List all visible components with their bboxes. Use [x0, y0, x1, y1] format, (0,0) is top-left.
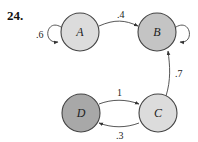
edge-label-a-b: .4 — [117, 9, 125, 20]
node-c-label: C — [154, 106, 163, 120]
node-c: C — [139, 94, 177, 132]
node-a: A — [61, 13, 99, 51]
edge-c-b — [166, 51, 170, 96]
edge-a-a — [48, 25, 61, 42]
node-d: D — [62, 94, 100, 132]
edge-label-c-d: .3 — [116, 130, 124, 141]
edge-d-c — [99, 100, 139, 104]
edge-label-a-a: .6 — [36, 29, 44, 40]
edge-a-b — [99, 21, 138, 26]
edge-c-d — [99, 123, 139, 127]
edge-b-b — [176, 25, 189, 42]
edge-label-d-c: 1 — [117, 87, 122, 98]
node-b: B — [138, 13, 176, 51]
node-b-label: B — [153, 25, 161, 39]
node-d-label: D — [76, 106, 86, 120]
markov-chain-diagram: A B C D .6 .4 .7 1 .3 — [0, 0, 198, 142]
node-a-label: A — [75, 25, 84, 39]
edge-label-c-b: .7 — [175, 68, 183, 79]
